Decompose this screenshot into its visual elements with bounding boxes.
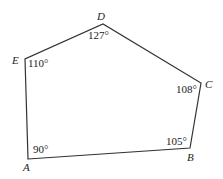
pentagon-figure: D E C B A 127° 110° 108° 105° 90° — [0, 0, 223, 179]
vertex-label-c: C — [205, 78, 213, 90]
vertex-label-d: D — [96, 10, 105, 22]
angle-label-d: 127° — [88, 29, 109, 41]
vertex-label-e: E — [11, 54, 19, 66]
vertex-label-b: B — [187, 151, 194, 163]
vertex-label-a: A — [22, 161, 30, 173]
angle-label-c: 108° — [176, 83, 197, 95]
angle-label-a: 90° — [33, 143, 48, 155]
pentagon-diagram: D E C B A 127° 110° 108° 105° 90° — [0, 0, 223, 179]
angle-label-e: 110° — [28, 57, 49, 69]
angle-label-b: 105° — [166, 135, 187, 147]
